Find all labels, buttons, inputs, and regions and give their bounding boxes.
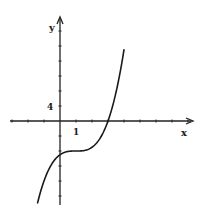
x-axis-label: x	[181, 127, 188, 138]
y-axis-label: y	[48, 22, 56, 33]
x-tick-label-1: 1	[73, 127, 79, 137]
function-curve	[38, 50, 124, 203]
cubic-function-graph: y x 1 4	[0, 0, 204, 215]
y-tick-label-4: 4	[47, 102, 53, 112]
axis-ticks	[12, 31, 188, 196]
